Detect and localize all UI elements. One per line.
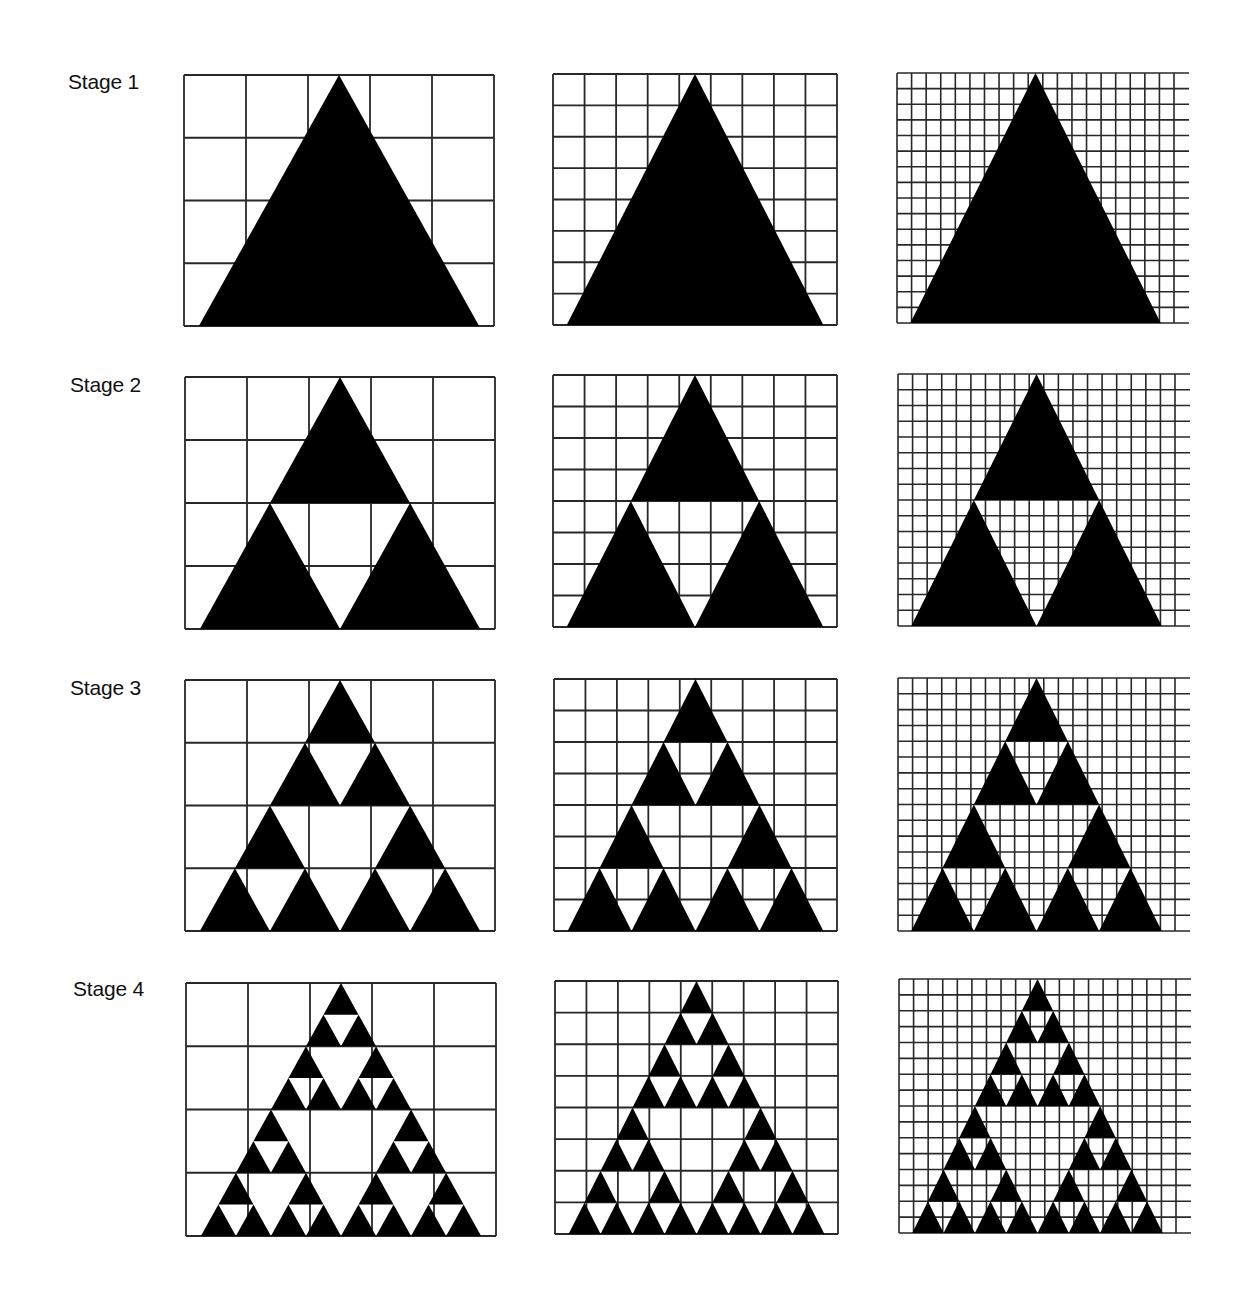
stage-2-label: Stage 2 bbox=[70, 373, 141, 397]
panel-stage-4-coarse-grid bbox=[185, 982, 497, 1237]
panel-stage-2-fine-grid bbox=[897, 373, 1191, 627]
sierpinski-grid-svg bbox=[553, 678, 838, 932]
stage-4-label: Stage 4 bbox=[73, 977, 144, 1001]
sierpinski-grid-svg bbox=[552, 73, 838, 326]
panel-stage-3-fine-grid bbox=[897, 677, 1191, 932]
sierpinski-grid-svg bbox=[552, 374, 838, 628]
sierpinski-grid-svg bbox=[897, 677, 1191, 932]
sierpinski-grid-svg bbox=[184, 376, 496, 630]
sierpinski-grid-svg bbox=[896, 72, 1190, 324]
panel-stage-1-medium-grid bbox=[552, 73, 838, 326]
sierpinski-grid-svg bbox=[183, 74, 495, 327]
panel-stage-4-fine-grid bbox=[898, 978, 1192, 1234]
panel-stage-2-coarse-grid bbox=[184, 376, 496, 630]
sierpinski-grid-svg bbox=[184, 679, 496, 932]
stage-3-label: Stage 3 bbox=[70, 676, 141, 700]
sierpinski-grid-svg bbox=[554, 980, 839, 1235]
panel-stage-1-fine-grid bbox=[896, 72, 1190, 324]
panel-stage-3-coarse-grid bbox=[184, 679, 496, 932]
sierpinski-grid-svg bbox=[185, 982, 497, 1237]
sierpinski-grid-svg bbox=[897, 373, 1191, 627]
panel-stage-2-medium-grid bbox=[552, 374, 838, 628]
panel-stage-3-medium-grid bbox=[553, 678, 838, 932]
sierpinski-grid-svg bbox=[898, 978, 1192, 1234]
stage-1-label: Stage 1 bbox=[68, 70, 139, 94]
panel-stage-1-coarse-grid bbox=[183, 74, 495, 327]
panel-stage-4-medium-grid bbox=[554, 980, 839, 1235]
